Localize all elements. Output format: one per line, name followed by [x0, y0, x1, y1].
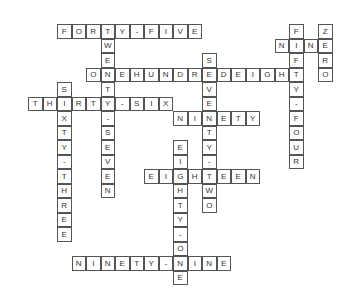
crossword-cell[interactable]: E: [115, 256, 130, 271]
crossword-cell[interactable]: N: [202, 256, 217, 271]
crossword-cell[interactable]: O: [86, 68, 101, 83]
crossword-cell[interactable]: R: [318, 53, 333, 68]
crossword-cell[interactable]: H: [130, 68, 145, 83]
crossword-cell[interactable]: T: [231, 111, 246, 126]
crossword-cell[interactable]: E: [173, 271, 188, 286]
crossword-cell[interactable]: I: [246, 68, 261, 83]
crossword-cell[interactable]: X: [159, 97, 174, 112]
crossword-cell[interactable]: O: [318, 68, 333, 83]
crossword-cell[interactable]: I: [173, 155, 188, 170]
crossword-cell[interactable]: Y: [173, 213, 188, 228]
crossword-cell[interactable]: I: [289, 39, 304, 54]
crossword-cell[interactable]: I: [159, 24, 174, 39]
crossword-cell[interactable]: E: [173, 140, 188, 155]
crossword-cell[interactable]: H: [188, 169, 203, 184]
crossword-cell[interactable]: T: [173, 198, 188, 213]
crossword-cell[interactable]: F: [57, 24, 72, 39]
crossword-cell[interactable]: E: [202, 97, 217, 112]
crossword-cell[interactable]: N: [101, 184, 116, 199]
crossword-cell[interactable]: N: [202, 111, 217, 126]
crossword-cell[interactable]: Y: [246, 111, 261, 126]
crossword-cell[interactable]: N: [246, 169, 261, 184]
crossword-cell[interactable]: -: [101, 111, 116, 126]
crossword-cell[interactable]: T: [57, 126, 72, 141]
crossword-cell[interactable]: E: [217, 169, 232, 184]
crossword-cell[interactable]: H: [275, 68, 290, 83]
crossword-cell[interactable]: S: [101, 126, 116, 141]
crossword-cell[interactable]: T: [202, 169, 217, 184]
crossword-cell[interactable]: I: [86, 256, 101, 271]
crossword-cell[interactable]: I: [188, 111, 203, 126]
crossword-cell[interactable]: T: [101, 24, 116, 39]
crossword-cell[interactable]: E: [57, 227, 72, 242]
crossword-cell[interactable]: -: [115, 97, 130, 112]
crossword-cell[interactable]: E: [101, 140, 116, 155]
crossword-cell[interactable]: O: [202, 198, 217, 213]
crossword-cell[interactable]: O: [72, 24, 87, 39]
crossword-cell[interactable]: -: [202, 155, 217, 170]
crossword-cell[interactable]: U: [144, 68, 159, 83]
crossword-cell[interactable]: G: [260, 68, 275, 83]
crossword-cell[interactable]: N: [173, 111, 188, 126]
crossword-cell[interactable]: G: [173, 169, 188, 184]
crossword-cell[interactable]: R: [57, 198, 72, 213]
crossword-cell[interactable]: F: [289, 24, 304, 39]
crossword-cell[interactable]: E: [231, 68, 246, 83]
crossword-cell[interactable]: I: [57, 97, 72, 112]
crossword-cell[interactable]: Y: [101, 97, 116, 112]
crossword-cell[interactable]: T: [130, 256, 145, 271]
crossword-cell[interactable]: N: [101, 68, 116, 83]
crossword-cell[interactable]: T: [202, 126, 217, 141]
crossword-cell[interactable]: U: [289, 140, 304, 155]
crossword-cell[interactable]: -: [159, 256, 174, 271]
crossword-cell[interactable]: I: [159, 169, 174, 184]
crossword-cell[interactable]: F: [289, 111, 304, 126]
crossword-cell[interactable]: R: [289, 155, 304, 170]
crossword-cell[interactable]: X: [57, 111, 72, 126]
crossword-cell[interactable]: N: [275, 39, 290, 54]
crossword-cell[interactable]: T: [57, 169, 72, 184]
crossword-cell[interactable]: N: [159, 68, 174, 83]
crossword-cell[interactable]: E: [115, 68, 130, 83]
crossword-cell[interactable]: E: [231, 169, 246, 184]
crossword-cell[interactable]: S: [130, 97, 145, 112]
crossword-cell[interactable]: Y: [202, 140, 217, 155]
crossword-cell[interactable]: I: [144, 97, 159, 112]
crossword-cell[interactable]: O: [289, 126, 304, 141]
crossword-cell[interactable]: S: [202, 53, 217, 68]
crossword-cell[interactable]: Z: [318, 24, 333, 39]
crossword-cell[interactable]: H: [43, 97, 58, 112]
crossword-cell[interactable]: E: [202, 68, 217, 83]
crossword-cell[interactable]: W: [101, 39, 116, 54]
crossword-cell[interactable]: E: [217, 111, 232, 126]
crossword-cell[interactable]: -: [173, 227, 188, 242]
crossword-cell[interactable]: T: [28, 97, 43, 112]
crossword-cell[interactable]: Y: [115, 24, 130, 39]
crossword-cell[interactable]: E: [101, 169, 116, 184]
crossword-cell[interactable]: Y: [289, 82, 304, 97]
crossword-cell[interactable]: R: [188, 68, 203, 83]
crossword-cell[interactable]: V: [173, 24, 188, 39]
crossword-cell[interactable]: E: [188, 24, 203, 39]
crossword-cell[interactable]: D: [173, 68, 188, 83]
crossword-cell[interactable]: H: [173, 184, 188, 199]
crossword-cell[interactable]: T: [289, 68, 304, 83]
crossword-cell[interactable]: N: [173, 256, 188, 271]
crossword-cell[interactable]: D: [217, 68, 232, 83]
crossword-cell[interactable]: V: [101, 155, 116, 170]
crossword-cell[interactable]: T: [101, 82, 116, 97]
crossword-cell[interactable]: -: [130, 24, 145, 39]
crossword-cell[interactable]: E: [144, 169, 159, 184]
crossword-cell[interactable]: -: [57, 155, 72, 170]
crossword-cell[interactable]: F: [289, 53, 304, 68]
crossword-cell[interactable]: E: [101, 53, 116, 68]
crossword-cell[interactable]: R: [86, 24, 101, 39]
crossword-cell[interactable]: W: [202, 184, 217, 199]
crossword-cell[interactable]: F: [144, 24, 159, 39]
crossword-cell[interactable]: E: [318, 39, 333, 54]
crossword-cell[interactable]: Y: [57, 140, 72, 155]
crossword-cell[interactable]: V: [202, 82, 217, 97]
crossword-cell[interactable]: I: [188, 256, 203, 271]
crossword-cell[interactable]: E: [57, 213, 72, 228]
crossword-cell[interactable]: H: [57, 184, 72, 199]
